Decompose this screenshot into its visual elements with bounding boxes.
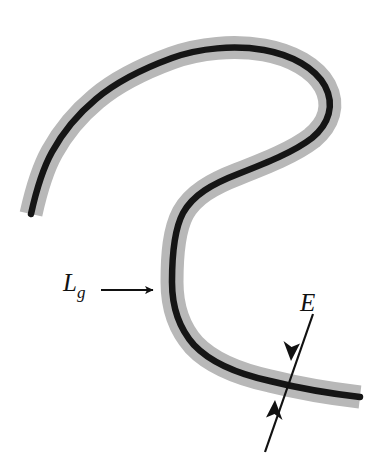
figure-root: Lg E (0, 0, 384, 468)
band-diagram-svg (0, 0, 384, 468)
label-e: E (300, 290, 315, 315)
label-lg-main: L (63, 269, 77, 296)
label-lg-subscript: g (77, 283, 86, 302)
label-lg: Lg (63, 270, 85, 295)
